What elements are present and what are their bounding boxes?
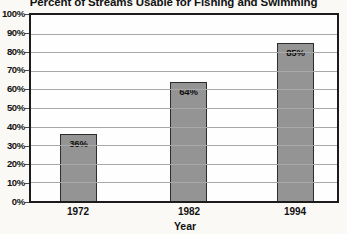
y-axis-tick-label: 60%	[0, 84, 25, 94]
gridline	[31, 52, 337, 53]
y-axis-tick-label: 90%	[0, 28, 25, 38]
gridline	[31, 108, 337, 109]
y-axis-tick-label: 10%	[0, 178, 25, 188]
x-axis-title: Year	[155, 220, 215, 232]
bar-1972: 36%	[60, 134, 97, 201]
x-axis-tick-label-1982: 1982	[159, 206, 219, 217]
gridline	[31, 127, 337, 128]
x-axis-tick-label-1972: 1972	[48, 206, 108, 217]
y-axis-tick-label: 50%	[0, 103, 25, 113]
plot-area: 36% 64% 85%	[29, 13, 339, 203]
y-axis-tick-label: 20%	[0, 159, 25, 169]
y-axis-tick-label: 40%	[0, 122, 25, 132]
y-axis-tick-label: 80%	[0, 47, 25, 57]
bar-1994: 85%	[277, 43, 314, 201]
gridline	[31, 34, 337, 35]
y-axis-tick-label: 70%	[0, 65, 25, 75]
bar-value-label-1972: 36%	[61, 138, 96, 149]
bar-chart-figure: Percent of Streams Usable for Fishing an…	[0, 0, 347, 234]
bar-value-label-1982: 64%	[171, 86, 206, 97]
y-axis-tick-label: 0%	[0, 197, 25, 207]
x-axis-tick-label-1994: 1994	[265, 206, 325, 217]
gridline	[31, 182, 337, 183]
y-axis-tick-label: 100%	[0, 9, 25, 19]
gridline	[31, 89, 337, 90]
gridline	[31, 164, 337, 165]
y-axis-tick-label: 30%	[0, 141, 25, 151]
gridline	[31, 145, 337, 146]
chart-title: Percent of Streams Usable for Fishing an…	[0, 0, 347, 8]
gridline	[31, 71, 337, 72]
y-axis: 100%90%80%70%60%50%40%30%20%10%0%	[0, 14, 25, 202]
